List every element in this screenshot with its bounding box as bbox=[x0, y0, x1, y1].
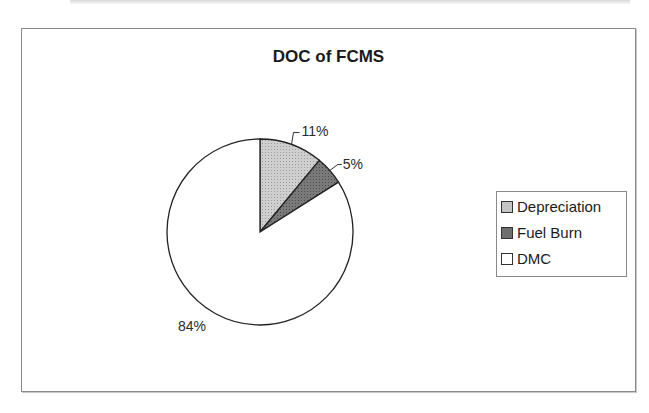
swatch-icon bbox=[501, 201, 513, 213]
legend-label: Depreciation bbox=[517, 198, 601, 215]
data-label-fuel-burn: 5% bbox=[343, 156, 363, 172]
cropped-text-line bbox=[70, 0, 630, 4]
chart-area: DOC of FCMS 11% 5% 84% Depreciation Fuel… bbox=[21, 28, 636, 392]
data-label-depreciation: 11% bbox=[302, 123, 329, 139]
data-label-dmc: 84% bbox=[178, 318, 206, 334]
legend-item-fuel-burn: Fuel Burn bbox=[501, 224, 582, 241]
legend: Depreciation Fuel Burn DMC bbox=[496, 191, 627, 277]
swatch-icon bbox=[501, 227, 513, 239]
legend-item-depreciation: Depreciation bbox=[501, 198, 601, 215]
legend-item-dmc: DMC bbox=[501, 250, 551, 267]
legend-label: DMC bbox=[517, 250, 551, 267]
swatch-icon bbox=[501, 253, 513, 265]
legend-label: Fuel Burn bbox=[517, 224, 582, 241]
